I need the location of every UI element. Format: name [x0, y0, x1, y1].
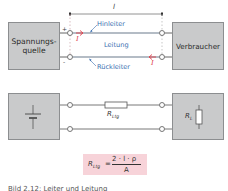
load-resistor-icon — [196, 105, 202, 129]
load-resistance-subscript: L — [190, 116, 193, 121]
formula-box: RLtg = 2 · l · ρ A — [83, 154, 147, 175]
formula-denominator: A — [124, 166, 129, 174]
figure-caption: Bild 2.12: Leiter und Leitung — [8, 185, 107, 191]
diagram-canvas: l Spannungs- quelle Verbraucher + - I I … — [0, 0, 228, 191]
line-resistance-label: RLtg — [107, 110, 119, 121]
battery-icon — [25, 105, 41, 129]
formula-equals: = — [105, 160, 111, 168]
fraction-bar — [112, 164, 141, 165]
line-resistance-subscript: Ltg — [112, 114, 119, 119]
formula-lhs-subscript: Ltg — [93, 164, 100, 169]
formula-lhs: RLtg — [88, 160, 100, 171]
formula-numerator: 2 · l · ρ — [112, 155, 136, 163]
load-resistance-label: RL — [185, 112, 192, 123]
